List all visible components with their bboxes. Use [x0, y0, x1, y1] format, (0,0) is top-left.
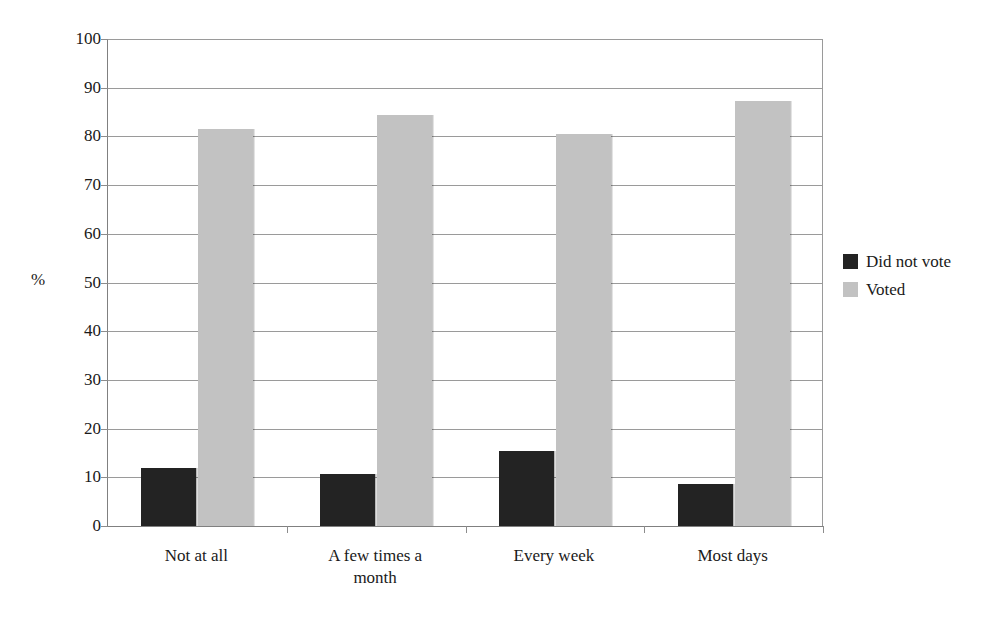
x-category-label-line: Most days — [643, 545, 822, 567]
bar-did-not-vote — [499, 451, 554, 526]
y-tickmark — [101, 331, 108, 332]
y-tickmark — [101, 526, 108, 527]
x-axis-separator — [466, 526, 467, 533]
x-category-label: Every week — [465, 545, 644, 567]
x-category-label: Most days — [643, 545, 822, 567]
plot-area — [107, 39, 823, 527]
bar-did-not-vote — [678, 484, 733, 526]
bar-chart: % 1009080706050403020100 Not at allA few… — [0, 0, 1007, 622]
x-axis-separator — [287, 526, 288, 533]
x-category-label-line: A few times a — [286, 545, 465, 567]
legend-item: Did not vote — [843, 252, 1003, 271]
legend: Did not voteVoted — [843, 252, 1003, 308]
bar-voted — [735, 101, 790, 526]
legend-label: Voted — [866, 280, 905, 299]
y-tick-label: 50 — [55, 274, 101, 291]
y-tick-label: 20 — [55, 420, 101, 437]
x-category-label: A few times amonth — [286, 545, 465, 589]
y-tickmark — [101, 283, 108, 284]
y-tick-label: 10 — [55, 468, 101, 485]
y-tick-label: 40 — [55, 322, 101, 339]
y-tick-label: 80 — [55, 127, 101, 144]
y-tickmark — [101, 380, 108, 381]
y-tick-label: 0 — [55, 517, 101, 534]
y-tickmark — [101, 477, 108, 478]
y-axis-tick-labels: 1009080706050403020100 — [55, 0, 101, 622]
x-category-label-line: month — [286, 567, 465, 589]
x-category-label-line: Every week — [465, 545, 644, 567]
legend-swatch-did-not-vote — [843, 254, 858, 269]
y-tick-label: 100 — [55, 30, 101, 47]
bar-voted — [377, 115, 432, 526]
y-tickmark — [101, 88, 108, 89]
bar-voted — [198, 129, 253, 526]
gridline — [108, 39, 823, 40]
y-tickmark — [101, 429, 108, 430]
bar-did-not-vote — [320, 474, 375, 526]
x-axis-separator — [644, 526, 645, 533]
y-tickmark — [101, 136, 108, 137]
y-tick-label: 70 — [55, 176, 101, 193]
gridline — [108, 88, 823, 89]
y-tickmark — [101, 234, 108, 235]
y-tickmark — [101, 185, 108, 186]
y-tickmark — [101, 39, 108, 40]
y-tick-label: 90 — [55, 79, 101, 96]
legend-item: Voted — [843, 280, 1003, 299]
bar-did-not-vote — [141, 468, 196, 526]
y-tick-label: 60 — [55, 225, 101, 242]
y-tick-label: 30 — [55, 371, 101, 388]
y-axis-title: % — [26, 271, 50, 288]
legend-swatch-voted — [843, 282, 858, 297]
x-category-label: Not at all — [107, 545, 286, 567]
legend-label: Did not vote — [866, 252, 951, 271]
x-axis-separator — [823, 526, 824, 533]
x-category-label-line: Not at all — [107, 545, 286, 567]
bar-voted — [556, 134, 611, 526]
